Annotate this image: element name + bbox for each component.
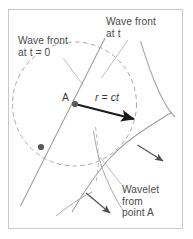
wavefront-t-line (141, 41, 176, 117)
label-point-a: A (62, 92, 69, 104)
radius-arrow (77, 105, 134, 120)
front-tail-lower-left (56, 192, 92, 216)
secondary-source-dot (38, 144, 44, 150)
leader-wavefront-t (102, 40, 129, 78)
label-wavefront-t0: Wave front at t = 0 (18, 35, 68, 58)
point-a-dot (72, 101, 78, 107)
ray-arrow-lower (86, 193, 110, 213)
leader-wavefront-t0 (64, 59, 84, 86)
label-radius-r-equals-ct: r = ct (95, 92, 119, 104)
ray-arrow-upper (138, 145, 164, 161)
figure-container: Wave front at t = 0 Wave front at t A r … (0, 0, 193, 239)
label-wavefront-t: Wave front at t (106, 16, 156, 39)
label-wavelet-from-point-a: Wavelet from point A (122, 184, 159, 219)
